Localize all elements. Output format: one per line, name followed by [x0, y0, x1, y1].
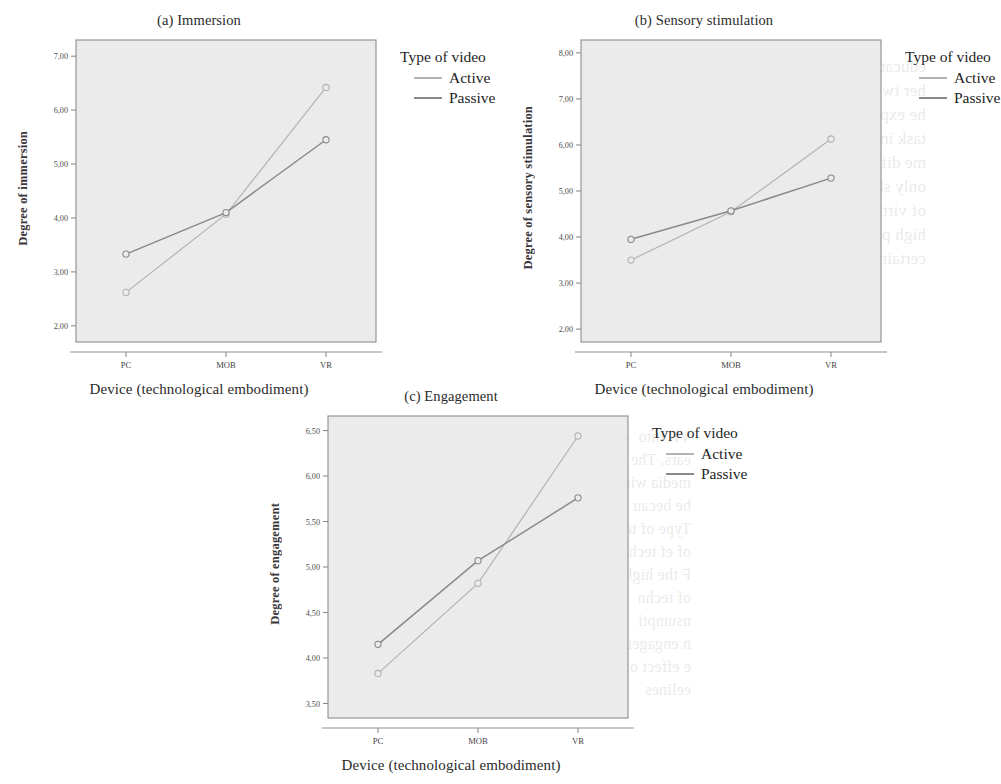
legend-immersion: Type of video Active Passive — [400, 32, 496, 107]
svg-text:2,00: 2,00 — [54, 322, 68, 331]
svg-text:5,00: 5,00 — [54, 160, 68, 169]
svg-text:6,00: 6,00 — [306, 472, 320, 481]
legend-label-passive: Passive — [701, 465, 748, 483]
legend-engagement: Type of video Active Passive — [652, 408, 748, 483]
svg-text:PC: PC — [626, 360, 637, 370]
legend-sensory-stimulation: Type of video Active Passive — [905, 32, 1001, 107]
line-plot-engagement[interactable]: 3,504,004,505,005,506,006,50PCMOBVR — [284, 408, 636, 758]
chart-panel-sensory-stimulation: (b) Sensory stimulation Degree of sensor… — [519, 12, 1001, 398]
plot-area-engagement: 3,504,004,505,005,506,006,50PCMOBVR — [284, 408, 636, 758]
legend-swatch-passive — [666, 473, 694, 475]
svg-text:5,00: 5,00 — [559, 187, 573, 196]
svg-text:PC: PC — [373, 736, 384, 746]
legend-label-active: Active — [954, 69, 995, 87]
svg-text:3,00: 3,00 — [559, 279, 573, 288]
chart-panel-engagement: (c) Engagement Degree of engagement 3,50… — [266, 388, 748, 774]
svg-text:5,00: 5,00 — [306, 563, 320, 572]
svg-text:6,00: 6,00 — [54, 106, 68, 115]
legend-swatch-passive — [919, 97, 947, 99]
y-axis-label-engagement: Degree of engagement — [266, 408, 284, 720]
x-axis-label-engagement: Device (technological embodiment) — [266, 757, 636, 774]
legend-title: Type of video — [905, 48, 1001, 66]
svg-text:7,00: 7,00 — [54, 52, 68, 61]
svg-text:6,50: 6,50 — [306, 427, 320, 436]
legend-item-passive[interactable]: Passive — [652, 465, 748, 483]
line-plot-sensory-stimulation[interactable]: 2,003,004,005,006,007,008,00PCMOBVR — [537, 32, 889, 382]
legend-swatch-passive — [414, 97, 442, 99]
y-axis-label-sensory-stimulation: Degree of sensory stimulation — [519, 32, 537, 344]
legend-title: Type of video — [652, 424, 748, 442]
svg-text:PC: PC — [121, 360, 132, 370]
svg-text:8,00: 8,00 — [559, 49, 573, 58]
svg-text:4,00: 4,00 — [306, 654, 320, 663]
plot-area-immersion: 2,003,004,005,006,007,00PCMOBVR — [32, 32, 384, 382]
svg-text:MOB: MOB — [721, 360, 741, 370]
chart-block-engagement: Degree of engagement 3,504,004,505,005,5… — [266, 408, 636, 774]
legend-item-passive[interactable]: Passive — [905, 89, 1001, 107]
svg-text:MOB: MOB — [216, 360, 236, 370]
svg-text:4,00: 4,00 — [559, 233, 573, 242]
legend-label-active: Active — [449, 69, 490, 87]
svg-text:VR: VR — [825, 360, 837, 370]
legend-title: Type of video — [400, 48, 496, 66]
legend-swatch-active — [919, 77, 947, 79]
svg-text:VR: VR — [320, 360, 332, 370]
legend-item-active[interactable]: Active — [400, 69, 496, 87]
svg-text:3,50: 3,50 — [306, 700, 320, 709]
chart-title-sensory-stimulation: (b) Sensory stimulation — [519, 12, 889, 29]
legend-item-active[interactable]: Active — [905, 69, 1001, 87]
legend-item-active[interactable]: Active — [652, 445, 748, 463]
y-axis-label-immersion: Degree of immersion — [14, 32, 32, 344]
chart-block-sensory-stimulation: Degree of sensory stimulation 2,003,004,… — [519, 32, 889, 398]
svg-text:2,00: 2,00 — [559, 325, 573, 334]
svg-text:6,00: 6,00 — [559, 141, 573, 150]
chart-panel-immersion: (a) Immersion Degree of immersion 2,003,… — [14, 12, 496, 398]
legend-item-passive[interactable]: Passive — [400, 89, 496, 107]
svg-text:5,50: 5,50 — [306, 518, 320, 527]
svg-text:MOB: MOB — [468, 736, 488, 746]
legend-label-active: Active — [701, 445, 742, 463]
legend-swatch-active — [414, 77, 442, 79]
legend-label-passive: Passive — [449, 89, 496, 107]
svg-text:VR: VR — [572, 736, 584, 746]
plot-area-sensory-stimulation: 2,003,004,005,006,007,008,00PCMOBVR — [537, 32, 889, 382]
legend-label-passive: Passive — [954, 89, 1001, 107]
svg-text:4,00: 4,00 — [54, 214, 68, 223]
line-plot-immersion[interactable]: 2,003,004,005,006,007,00PCMOBVR — [32, 32, 384, 382]
chart-block-immersion: Degree of immersion 2,003,004,005,006,00… — [14, 32, 384, 398]
svg-text:4,50: 4,50 — [306, 609, 320, 618]
legend-swatch-active — [666, 453, 694, 455]
svg-text:7,00: 7,00 — [559, 95, 573, 104]
chart-title-engagement: (c) Engagement — [266, 388, 636, 405]
svg-text:3,00: 3,00 — [54, 268, 68, 277]
chart-title-immersion: (a) Immersion — [14, 12, 384, 29]
